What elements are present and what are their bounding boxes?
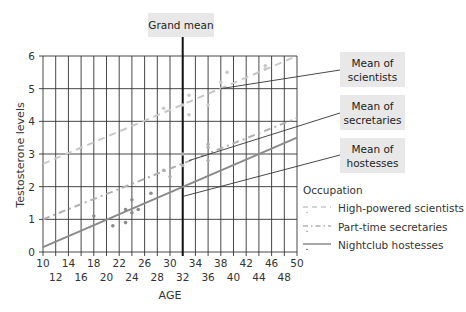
y-tick-label: 1 [28,213,35,225]
dashed-line-swatch-icon [303,203,331,213]
y-tick-label: 4 [28,115,35,127]
x-tick-label: 46 [265,257,279,269]
legend-title: Occupation [303,184,464,196]
callout-leader-line [221,70,340,89]
data-point [130,211,134,215]
legend: Occupation High-powered scientists Part-… [303,184,464,255]
x-tick-label: 30 [163,257,176,269]
x-tick-label: 26 [138,257,152,269]
x-tick-label: 14 [62,257,76,269]
grand-mean-label: Grand mean [148,13,214,37]
mean-hostesses-line1: Mean of [351,142,393,156]
y-tick-label: 6 [28,50,35,62]
data-point [92,214,96,218]
mean-hostesses-label: Mean of hostesses [340,138,405,173]
x-tick-label: 34 [189,257,203,269]
data-point [263,64,267,68]
x-tick-label: 32 [176,271,189,283]
x-tick-label: 50 [290,257,303,269]
x-tick-label: 22 [113,257,126,269]
data-point [206,142,210,146]
mean-hostesses-line2: hostesses [347,156,399,170]
x-tick-label: 12 [49,271,62,283]
data-point [162,169,166,173]
data-point [225,71,229,75]
x-tick-label: 38 [214,257,227,269]
data-point [181,164,185,168]
grid [39,37,297,256]
callout-leader-line [189,113,340,161]
x-tick-label: 16 [74,271,88,283]
y-tick-label: 5 [28,83,35,95]
data-point [111,224,115,228]
data-point [206,103,210,107]
legend-item-scientists: High-powered scientists [303,199,464,218]
legend-item-secretaries: Part-time secretaries [303,218,464,237]
data-point [124,221,128,225]
dash-dot-line-swatch-icon [303,222,331,232]
x-tick-label: 48 [278,271,291,283]
x-axis-label: AGE [159,289,182,302]
grand-mean-text: Grand mean [148,18,213,32]
axis-ticks: 0123456101418222630343842465012162024283… [28,50,303,283]
mean-scientists-line2: scientists [348,70,397,84]
mean-scientists-line1: Mean of [351,56,393,70]
data-point [124,208,128,212]
mean-secretaries-line2: secretaries [344,113,402,127]
data-point [136,208,140,212]
x-tick-label: 44 [252,271,266,283]
data-point [181,152,185,156]
data-point [187,113,191,117]
y-axis-label: Testosterone levels [14,102,27,209]
solid-line-swatch-icon [303,240,331,250]
data-point [219,80,223,84]
data-point [168,175,172,179]
legend-label-secretaries: Part-time secretaries [338,221,448,233]
data-point [181,103,185,107]
y-tick-label: 2 [28,181,35,193]
mean-scientists-label: Mean of scientists [340,52,405,87]
data-point [130,198,134,202]
x-tick-label: 40 [227,271,240,283]
x-tick-label: 18 [87,257,100,269]
mean-secretaries-line1: Mean of [351,99,393,113]
x-tick-label: 36 [201,271,215,283]
data-point [263,67,267,71]
data-point [149,191,153,195]
mean-secretaries-label: Mean of secretaries [340,95,405,130]
legend-item-hostesses: Nightclub hostesses [303,236,464,255]
y-tick-label: 3 [28,148,35,160]
x-tick-label: 42 [240,257,253,269]
x-tick-label: 28 [151,271,164,283]
data-point [162,106,166,110]
data-point [206,146,210,150]
legend-label-scientists: High-powered scientists [338,202,464,214]
y-tick-label: 0 [28,246,35,258]
x-tick-label: 20 [100,271,113,283]
x-tick-label: 10 [36,257,49,269]
legend-label-hostesses: Nightclub hostesses [338,239,444,251]
data-point [187,93,191,97]
data-point [206,159,210,163]
x-tick-label: 24 [125,271,139,283]
